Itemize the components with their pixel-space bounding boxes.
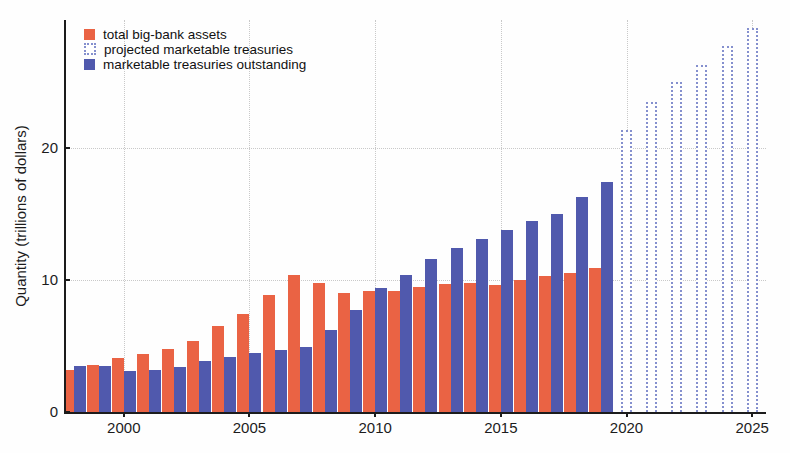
bar-projected-treasuries-2022 <box>671 82 682 412</box>
x-tick-label: 2025 <box>724 419 780 436</box>
bar-treasuries-2005 <box>249 353 261 412</box>
bar-treasuries-2007 <box>300 347 312 412</box>
bar-treasuries-2001 <box>149 370 161 412</box>
x-tick-label: 2010 <box>347 419 403 436</box>
bar-projected-treasuries-2024 <box>722 46 733 412</box>
bar-projected-treasuries-2025 <box>747 28 758 412</box>
bar-bank-assets-1999 <box>87 365 99 413</box>
bar-treasuries-2013 <box>451 248 463 412</box>
bar-bank-assets-2009 <box>338 293 350 412</box>
bar-bank-assets-2010 <box>363 291 375 412</box>
x-tick-label: 2015 <box>473 419 529 436</box>
legend-label: total big-bank assets <box>103 28 227 41</box>
bar-bank-assets-2007 <box>288 275 300 412</box>
bar-projected-treasuries-2023 <box>696 65 707 412</box>
bar-bank-assets-2005 <box>237 314 249 412</box>
bar-treasuries-2000 <box>124 371 136 412</box>
bar-bank-assets-1998 <box>64 370 74 412</box>
bar-bank-assets-2019 <box>589 268 601 412</box>
bar-treasuries-2009 <box>350 310 362 412</box>
bar-treasuries-2017 <box>551 214 563 412</box>
legend: total big-bank assets projected marketab… <box>84 27 306 71</box>
bar-bank-assets-2003 <box>187 341 199 412</box>
bar-treasuries-2015 <box>501 230 513 412</box>
gridline-vertical <box>124 20 125 412</box>
bar-treasuries-2003 <box>199 361 211 412</box>
bar-bank-assets-2012 <box>413 287 425 412</box>
bar-bank-assets-2008 <box>313 283 325 412</box>
bar-bank-assets-2018 <box>564 273 576 412</box>
bar-treasuries-2016 <box>526 221 538 412</box>
bar-treasuries-2008 <box>325 330 337 412</box>
legend-swatch-projected-treasuries <box>84 43 96 55</box>
bar-treasuries-2002 <box>174 367 186 412</box>
gridline-horizontal <box>66 280 766 281</box>
bar-treasuries-2012 <box>425 259 437 412</box>
bar-treasuries-2004 <box>224 357 236 412</box>
bar-bank-assets-2001 <box>137 354 149 412</box>
x-tick-label: 2020 <box>599 419 655 436</box>
bar-bank-assets-2017 <box>539 276 551 412</box>
bar-bank-assets-2011 <box>388 291 400 412</box>
bar-treasuries-2014 <box>476 239 488 412</box>
bar-treasuries-2010 <box>375 288 387 412</box>
bar-treasuries-1998 <box>74 366 86 412</box>
legend-swatch-bank-assets <box>84 29 95 40</box>
bar-projected-treasuries-2021 <box>646 102 657 412</box>
legend-item-projected-treasuries: projected marketable treasuries <box>84 42 306 56</box>
bar-bank-assets-2000 <box>112 358 124 412</box>
bar-bank-assets-2006 <box>263 295 275 412</box>
bar-treasuries-2018 <box>576 197 588 412</box>
plot-area: total big-bank assets projected marketab… <box>64 20 766 414</box>
x-tick-label: 2000 <box>96 419 152 436</box>
legend-swatch-treasuries-outstanding <box>84 59 95 70</box>
y-tick-label: 0 <box>20 403 58 420</box>
legend-item-bank-assets: total big-bank assets <box>84 27 306 41</box>
x-tick-label: 2005 <box>221 419 277 436</box>
bar-bank-assets-2013 <box>439 284 451 412</box>
bar-bank-assets-2015 <box>489 285 501 412</box>
gridline-horizontal <box>66 148 766 149</box>
bar-bank-assets-2014 <box>464 283 476 412</box>
bar-bank-assets-2002 <box>162 349 174 412</box>
bar-treasuries-2011 <box>400 275 412 412</box>
bar-treasuries-2006 <box>275 350 287 412</box>
bar-bank-assets-2016 <box>514 280 526 412</box>
bar-treasuries-2019 <box>601 182 613 412</box>
bar-projected-treasuries-2020 <box>621 130 632 412</box>
legend-label: marketable treasuries outstanding <box>103 58 306 71</box>
y-axis-title: Quantity (trillions of dollars) <box>12 125 29 307</box>
legend-label: projected marketable treasuries <box>104 43 293 56</box>
bar-treasuries-1999 <box>99 366 111 412</box>
legend-item-treasuries-outstanding: marketable treasuries outstanding <box>84 57 306 71</box>
bar-bank-assets-2004 <box>212 326 224 412</box>
chart: Quantity (trillions of dollars) total bi… <box>0 0 790 453</box>
